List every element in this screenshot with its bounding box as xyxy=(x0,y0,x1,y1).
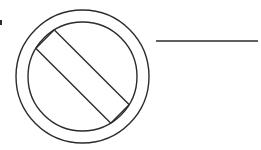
prohibition-sign-figure xyxy=(0,0,261,150)
corner-tick-mark xyxy=(0,20,2,25)
